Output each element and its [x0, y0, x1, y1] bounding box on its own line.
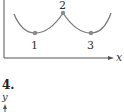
graph-svg [0, 0, 124, 112]
point-1 [33, 31, 37, 35]
point-3-label: 3 [87, 40, 94, 51]
problem-number: 4. [2, 79, 15, 91]
point-3 [89, 31, 93, 35]
point-1-label: 1 [31, 40, 38, 51]
point-2-label: 2 [59, 0, 66, 11]
x-axis-label: x [116, 52, 122, 63]
next-y-axis-label: y [2, 92, 8, 102]
curve [14, 13, 111, 33]
x-axis-arrow-icon [108, 56, 114, 60]
next-y-axis-arrow-icon [3, 104, 7, 109]
